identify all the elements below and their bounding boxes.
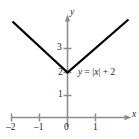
y-tick-label-1: 1: [58, 90, 63, 100]
equation-annotation: y = |x| + 2: [78, 68, 115, 78]
y-tick-label-3: 3: [57, 43, 62, 53]
x-axis-label: x: [132, 110, 136, 120]
x-tick-label-0: 0: [64, 123, 69, 133]
plot-canvas: [0, 0, 139, 139]
x-tick-label-1: 1: [93, 123, 98, 133]
x-tick-label-neg1: –1: [34, 123, 44, 133]
absolute-value-curve: [13, 20, 129, 73]
graph-figure: y x 3 2 1 –2 –1 0 1 y = |x| + 2: [0, 0, 139, 139]
x-tick-label-neg2: –2: [6, 123, 16, 133]
x-axis-arrowhead: [125, 115, 132, 120]
y-tick-label-2: 2: [58, 68, 63, 78]
equation-plus-two: + 2: [100, 67, 115, 77]
y-axis-label: y: [70, 8, 74, 18]
equation-equals: =: [82, 67, 92, 77]
